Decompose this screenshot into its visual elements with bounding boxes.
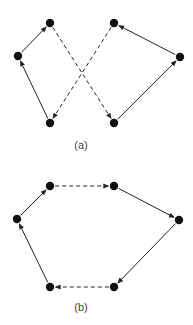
graph-node bbox=[175, 216, 183, 224]
solid-arrow-edge bbox=[118, 61, 176, 119]
solid-arrow-edge bbox=[119, 26, 175, 55]
solid-arrow-edge bbox=[118, 224, 175, 283]
graph-node bbox=[110, 182, 118, 190]
solid-arrow-edge bbox=[21, 190, 46, 215]
panel-label: (a) bbox=[74, 139, 87, 151]
panel-a: (a) bbox=[14, 19, 184, 151]
graph-node bbox=[13, 215, 21, 223]
solid-arrow-edge bbox=[119, 188, 174, 217]
panel-label: (b) bbox=[74, 301, 87, 313]
graph-node bbox=[14, 52, 22, 60]
diagram-canvas: (a) (b) bbox=[0, 0, 193, 325]
graph-node bbox=[46, 283, 54, 291]
solid-arrow-edge bbox=[19, 224, 47, 282]
graph-node bbox=[110, 283, 118, 291]
graph-node bbox=[46, 119, 54, 127]
graph-node bbox=[110, 119, 118, 127]
graph-node bbox=[110, 19, 118, 27]
graph-node bbox=[46, 19, 54, 27]
solid-arrow-edge bbox=[20, 61, 47, 118]
panel-b: (b) bbox=[13, 182, 183, 313]
graph-node bbox=[46, 182, 54, 190]
solid-arrow-edge bbox=[22, 27, 46, 52]
graph-node bbox=[176, 53, 184, 61]
